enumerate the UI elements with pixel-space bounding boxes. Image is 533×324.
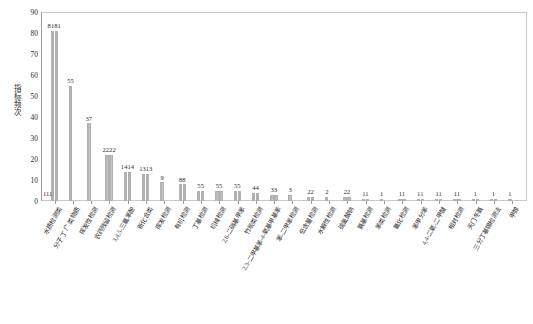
x-tick-label: 相对检测 — [447, 206, 465, 230]
x-tick-mark — [238, 201, 239, 204]
bar — [51, 31, 54, 201]
x-tick-mark — [292, 201, 293, 204]
x-tick-label: 新化合类 — [136, 206, 154, 230]
y-axis-tick-labels: 0102030405060708090 — [20, 12, 38, 201]
x-tick-mark — [421, 201, 422, 204]
bar — [343, 197, 346, 201]
bar-value-label: 11 — [399, 190, 405, 197]
y-tick-label-30: 30 — [20, 134, 38, 143]
x-tick-mark — [347, 201, 348, 204]
x-tick-label: 天门冬氨 — [466, 206, 484, 230]
x-tick-mark — [256, 201, 257, 204]
x-tick-mark — [402, 201, 403, 204]
x-tick-mark — [128, 201, 129, 204]
bar — [325, 197, 328, 201]
bar — [252, 193, 255, 201]
x-tick-label: 苯甲分苯 — [411, 206, 429, 230]
x-tick-label: 水解性检测 — [316, 206, 337, 235]
x-tick-label: 氯化检测 — [392, 206, 410, 230]
y-axis-title: 指标频次 — [6, 84, 20, 116]
bar — [453, 199, 456, 201]
x-tick-mark — [146, 201, 147, 204]
bar-value-label: 55 — [67, 77, 74, 84]
bar-value-label: 11 — [435, 190, 441, 197]
bar — [219, 191, 222, 202]
bar-value-label: 11 — [454, 190, 460, 197]
x-tick-mark — [183, 201, 184, 204]
bar — [256, 193, 259, 201]
x-tick-mark — [512, 201, 513, 204]
y-tick-label-10: 10 — [20, 176, 38, 185]
bar-value-label: 22 — [344, 188, 351, 195]
bar-value-label: 37 — [86, 115, 93, 122]
bar-value-label: 1 — [380, 190, 383, 197]
x-tick-mark — [457, 201, 458, 204]
x-tick-label: 机械检测 — [209, 206, 227, 230]
x-tick-label: 丁基检测 — [191, 206, 209, 230]
bar — [87, 123, 90, 201]
x-tick-label: 有机检测 — [173, 206, 191, 230]
bar-value-label: 88 — [179, 176, 186, 183]
bar — [69, 86, 72, 202]
y-tick-label-80: 80 — [20, 29, 38, 38]
bar-value-label: 11 — [362, 190, 368, 197]
bar — [215, 191, 218, 202]
x-tick-mark — [476, 201, 477, 204]
x-tick-label: 挥发检测 — [154, 206, 172, 230]
bar-value-label: 1414 — [121, 163, 134, 170]
x-tick-mark — [329, 201, 330, 204]
bar-value-label: 44 — [252, 184, 259, 191]
bar — [124, 172, 127, 201]
bar — [142, 174, 145, 201]
x-tick-mark — [164, 201, 165, 204]
plot-area: 8181553722221414131398855555544333222221… — [41, 12, 527, 201]
bar-value-label: 3 — [289, 186, 292, 193]
y-tick-label-90: 90 — [20, 8, 38, 17]
axis-origin-label: 111 — [43, 190, 52, 197]
bar — [508, 199, 511, 201]
bar — [146, 174, 149, 201]
x-tick-mark — [73, 201, 74, 204]
bar-value-label: 55 — [197, 182, 204, 189]
bar — [183, 184, 186, 201]
bar — [234, 191, 237, 202]
bar — [238, 191, 241, 202]
x-tick-mark — [366, 201, 367, 204]
x-tick-mark — [494, 201, 495, 204]
x-tick-label: 硫氰酸钠 — [337, 206, 355, 230]
x-tick-label: 氨基检测 — [356, 206, 374, 230]
x-tick-mark — [384, 201, 385, 204]
bar-value-label: 55 — [216, 182, 223, 189]
x-tick-mark — [219, 201, 220, 204]
bar — [270, 195, 273, 201]
x-tick-mark — [91, 201, 92, 204]
bar-value-label: 9 — [160, 174, 163, 181]
bar — [417, 199, 420, 201]
bar-value-label: 22 — [307, 188, 314, 195]
bar — [490, 199, 493, 201]
bar-value-label: 1313 — [139, 165, 152, 172]
y-tick-label-70: 70 — [20, 50, 38, 59]
bar — [435, 199, 438, 201]
x-tick-mark — [311, 201, 312, 204]
bar-value-label: 11 — [417, 190, 423, 197]
x-tick-mark — [109, 201, 110, 204]
bar-value-label: 2222 — [103, 146, 116, 153]
bar — [128, 172, 131, 201]
bar — [472, 199, 475, 201]
y-tick-label-20: 20 — [20, 155, 38, 164]
bar-value-label: 55 — [234, 182, 241, 189]
y-tick-label-0: 0 — [20, 197, 38, 206]
bar-value-label: 8181 — [48, 22, 61, 29]
y-tick-label-40: 40 — [20, 113, 38, 122]
bar-value-label: 2 — [325, 188, 328, 195]
bar — [105, 155, 108, 201]
bar — [179, 184, 182, 201]
bar-value-label: 1 — [474, 190, 477, 197]
x-tick-label: 甲醇 — [508, 206, 520, 220]
bar-chart: 指标频次 0102030405060708090 818155372222141… — [0, 0, 533, 324]
y-tick-label-50: 50 — [20, 92, 38, 101]
bar — [160, 182, 163, 201]
bar-value-label: 1 — [508, 190, 511, 197]
bar — [288, 195, 291, 201]
